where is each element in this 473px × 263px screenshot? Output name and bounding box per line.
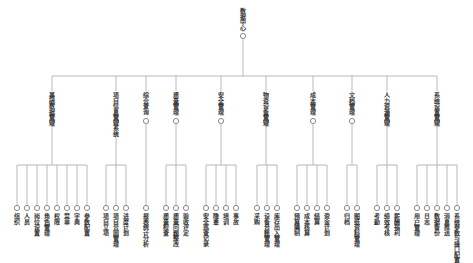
leaf-node-circle — [163, 205, 168, 210]
leaf-node-circle — [203, 205, 208, 210]
leaf-node-circle — [173, 205, 178, 210]
branch-node-label: 基础数据管理 — [49, 92, 56, 125]
leaf-node-label: 消息推送 — [444, 213, 451, 235]
leaf-node-circle — [14, 205, 19, 210]
leaf-node-label: 质量检查 — [163, 213, 170, 235]
leaf-node-label: 安全巡查记录 — [203, 213, 210, 246]
leaf-node-label: 组织 — [14, 213, 21, 224]
leaf-node-circle — [414, 205, 419, 210]
leaf-node-label: 成本核算 — [304, 213, 311, 235]
leaf-node-circle — [183, 205, 188, 210]
leaf-node-label: 参数配置 — [84, 213, 91, 235]
leaf-node-label: 报表统计分析 — [143, 213, 150, 246]
leaf-node-circle — [314, 205, 319, 210]
leaf-node-circle — [394, 205, 399, 210]
leaf-node-circle — [424, 205, 429, 210]
leaf-node-circle — [304, 205, 309, 210]
leaf-node-label: 项目合同管理 — [113, 213, 120, 246]
leaf-node-circle — [233, 205, 238, 210]
branch-node-label: 物资设备管理 — [263, 92, 270, 125]
leaf-node-label: 资金计划 — [324, 213, 331, 235]
leaf-node-circle — [54, 205, 59, 210]
leaf-node-circle — [34, 205, 39, 210]
branch-node-label: 文档管理 — [349, 92, 356, 114]
leaf-node-label: 项目立项 — [103, 213, 110, 235]
branch-node-circle — [310, 118, 315, 123]
leaf-node-circle — [123, 205, 128, 210]
leaf-node-label: 岗位设置 — [34, 213, 41, 235]
leaf-node-circle — [223, 205, 228, 210]
leaf-node-circle — [444, 205, 449, 210]
root-node-circle — [240, 33, 245, 38]
branch-node-label: 系统设置管理 — [434, 92, 441, 125]
leaf-node-circle — [384, 205, 389, 210]
leaf-node-circle — [74, 205, 79, 210]
leaf-node-label: 验收评定 — [183, 213, 190, 235]
leaf-node-circle — [274, 205, 279, 210]
leaf-node-label: 库存出入管理 — [274, 213, 281, 246]
leaf-node-label: 权限 — [54, 213, 61, 224]
leaf-node-circle — [24, 205, 29, 210]
branch-node-label: 综合查询 — [143, 92, 150, 114]
leaf-node-label: 绩效考核 — [384, 213, 391, 235]
branch-node-label: 成本管理 — [310, 92, 317, 114]
leaf-node-label: 归档 — [344, 213, 351, 224]
leaf-node-circle — [254, 205, 259, 210]
leaf-node-circle — [374, 205, 379, 210]
branch-node-circle — [173, 118, 178, 123]
leaf-node-circle — [44, 205, 49, 210]
leaf-node-label: 图纸资料管理 — [354, 213, 361, 246]
leaf-node-circle — [344, 205, 349, 210]
leaf-node-label: 质量问题整改 — [173, 213, 180, 246]
leaf-node-circle — [213, 205, 218, 210]
branch-node-circle — [349, 118, 354, 123]
leaf-node-label: 数据备份 — [434, 213, 441, 235]
leaf-node-label: 采购 — [254, 213, 261, 224]
branch-node-circle — [143, 118, 148, 123]
branch-node-label: 安全管理 — [218, 92, 225, 114]
leaf-node-label: 考勤 — [374, 213, 381, 224]
leaf-node-label: 字典 — [74, 213, 81, 224]
leaf-node-label: 培训 — [223, 213, 230, 224]
leaf-node-circle — [454, 205, 459, 210]
leaf-node-circle — [113, 205, 118, 210]
leaf-node-label: 菜单 — [64, 213, 71, 224]
leaf-node-circle — [143, 205, 148, 210]
leaf-node-label: 角色管理 — [44, 213, 51, 235]
leaf-node-label: 用户管理 — [414, 213, 421, 235]
leaf-node-circle — [324, 205, 329, 210]
leaf-node-label: 进度计划 — [123, 213, 130, 235]
leaf-node-label: 薪酬福利 — [394, 213, 401, 235]
leaf-node-circle — [64, 205, 69, 210]
leaf-node-label: 系统参数与接口配置 — [454, 213, 461, 263]
leaf-node-label: 隐患 — [213, 213, 220, 224]
leaf-node-circle — [103, 205, 108, 210]
leaf-node-circle — [434, 205, 439, 210]
leaf-node-circle — [294, 205, 299, 210]
leaf-node-circle — [354, 205, 359, 210]
leaf-node-label: 设备台账管理 — [264, 213, 271, 246]
branch-node-label: 人力资源管理 — [384, 92, 391, 125]
leaf-node-label: 结算 — [314, 213, 321, 224]
leaf-node-circle — [264, 205, 269, 210]
branch-node-label: 质量管理 — [173, 92, 180, 114]
branch-node-circle — [218, 118, 223, 123]
leaf-node-label: 预算编制 — [294, 213, 301, 235]
leaf-node-label: 人员 — [24, 213, 31, 224]
root-node-label: 数据中心 — [240, 8, 247, 30]
branch-node-label: 项目信息管理系统 — [113, 92, 120, 136]
leaf-node-circle — [84, 205, 89, 210]
leaf-node-label: 事故 — [233, 213, 240, 224]
leaf-node-label: 日志 — [424, 213, 431, 224]
